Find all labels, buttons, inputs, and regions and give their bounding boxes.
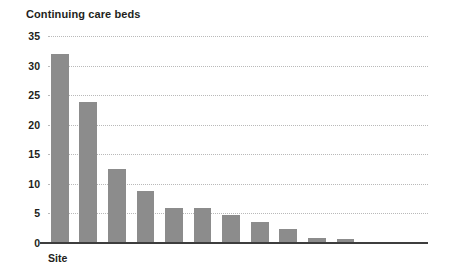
y-axis: 05101520253035 (0, 36, 40, 245)
y-tick-label: 25 (6, 90, 40, 101)
x-axis-title: Site (48, 252, 67, 264)
bar (165, 208, 183, 243)
bar (51, 54, 69, 243)
bar (194, 208, 212, 243)
y-tick-label: 30 (6, 61, 40, 72)
y-tick-label: 5 (6, 208, 40, 219)
bar (108, 169, 126, 243)
y-tick-label: 10 (6, 179, 40, 190)
bar (137, 191, 155, 243)
y-tick-label: 20 (6, 120, 40, 131)
bar (79, 102, 97, 243)
x-axis-line (40, 242, 428, 244)
y-tick-label: 35 (6, 31, 40, 42)
bar-chart-figure: Continuing care beds 05101520253035 Site (0, 0, 455, 279)
bars-layer (48, 36, 428, 243)
bar (222, 215, 240, 243)
y-tick-label: 0 (6, 238, 40, 249)
bar (251, 222, 269, 243)
chart-title: Continuing care beds (26, 8, 140, 20)
y-tick-label: 15 (6, 149, 40, 160)
bar (279, 229, 297, 243)
